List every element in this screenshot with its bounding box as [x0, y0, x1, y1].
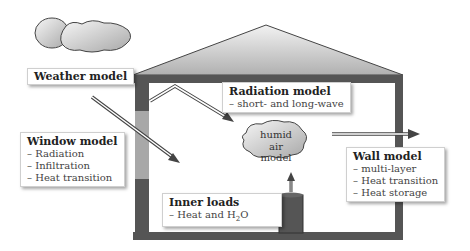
weather-cloud-icon — [35, 18, 131, 52]
inner-loads-item-prefix: – Heat and H — [169, 209, 236, 220]
window-pane — [135, 111, 149, 179]
radiation-model-title: Radiation model — [229, 85, 344, 98]
wall-model-box: Wall model – multi-layer – Heat transiti… — [346, 147, 445, 202]
wall-arrow — [332, 129, 420, 139]
wall-model-title: Wall model — [353, 150, 438, 163]
window-model-item: – Radiation — [27, 148, 118, 160]
inner-loads-box: Inner loads – Heat and H2O — [162, 193, 282, 227]
inner-load-source-icon — [279, 172, 303, 233]
wall-model-item: – multi-layer — [353, 163, 438, 175]
radiation-model-box: Radiation model – short- and long-wave — [222, 82, 351, 113]
roof — [133, 25, 403, 75]
window-model-item: – Heat transition — [27, 172, 118, 184]
window-model-title: Window model — [27, 135, 118, 148]
window-model-item: – Infiltration — [27, 160, 118, 172]
radiation-model-item: – short- and long-wave — [229, 98, 344, 110]
inner-loads-item-suffix: O — [240, 209, 248, 220]
weather-model-title: Weather model — [34, 70, 127, 83]
window-model-box: Window model – Radiation – Infiltration … — [20, 132, 125, 187]
humid-air-label: humid air model — [252, 129, 300, 164]
wall-model-item: – Heat transition — [353, 175, 438, 187]
inner-loads-item: – Heat and H2O — [169, 209, 275, 223]
inner-loads-title: Inner loads — [169, 196, 275, 209]
humid-air-label-line2: model — [252, 152, 300, 164]
wall-model-item: – Heat storage — [353, 187, 438, 199]
humid-air-label-line1: humid air — [252, 129, 300, 152]
weather-model-box: Weather model — [27, 68, 134, 85]
